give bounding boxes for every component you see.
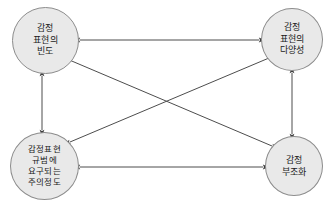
node-attention-line-3: 요구되는 bbox=[28, 166, 61, 177]
diagram-canvas: 감정 표현의 빈도 감정 표현의 다양성 감정표현 규범에 요구되는 주의정도 … bbox=[0, 0, 332, 207]
node-dissonance-line-2: 부조화 bbox=[282, 166, 307, 178]
node-frequency-line-3: 빈도 bbox=[37, 46, 54, 58]
node-variety-line-2: 표현의 bbox=[280, 34, 305, 46]
node-dissonance: 감정 부조화 bbox=[265, 136, 323, 196]
node-variety-line-3: 다양성 bbox=[280, 45, 305, 57]
node-frequency: 감정 표현의 빈도 bbox=[12, 7, 79, 74]
node-attention-line-1: 감정표현 bbox=[28, 144, 61, 155]
node-dissonance-line-1: 감정 bbox=[286, 154, 303, 166]
node-variety-line-1: 감정 bbox=[284, 22, 301, 34]
node-attention-line-2: 규범에 bbox=[32, 155, 57, 166]
node-variety: 감정 표현의 다양성 bbox=[261, 8, 323, 71]
node-frequency-line-1: 감정 bbox=[37, 23, 54, 35]
edge-variety-attention bbox=[70, 58, 269, 142]
node-attention-line-4: 주의정도 bbox=[28, 177, 61, 188]
node-attention: 감정표현 규범에 요구되는 주의정도 bbox=[10, 132, 79, 200]
node-frequency-line-2: 표현의 bbox=[33, 35, 58, 47]
edge-frequency-dissonance bbox=[67, 59, 272, 146]
